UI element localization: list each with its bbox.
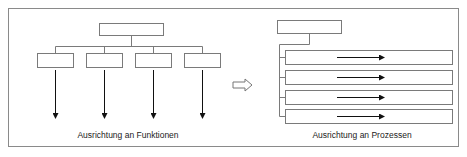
caption-processes: Ausrichtung an Prozessen bbox=[312, 130, 411, 140]
process-root-box bbox=[278, 21, 342, 34]
function-box bbox=[185, 54, 221, 68]
function-box bbox=[38, 54, 74, 68]
function-box bbox=[136, 54, 172, 68]
function-box bbox=[87, 54, 123, 68]
caption-functions: Ausrichtung an Funktionen bbox=[77, 130, 178, 140]
hollow-right-arrow-icon bbox=[233, 79, 252, 91]
function-root-box bbox=[100, 24, 164, 36]
